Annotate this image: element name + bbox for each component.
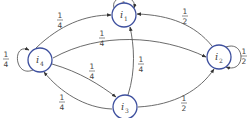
svg-text:3: 3 [125,107,129,114]
label-i4-i1: 1 4 [57,11,63,30]
svg-text:1: 1 [58,11,63,20]
svg-text:4: 4 [100,39,105,48]
svg-text:2: 2 [242,57,247,66]
svg-text:1: 1 [182,94,187,103]
node-i1: i 1 [112,3,136,27]
markov-chain-diagram: 1 1 2 1 2 1 2 1 4 1 4 1 4 [0,0,248,118]
svg-text:4: 4 [4,60,9,69]
svg-text:4: 4 [139,65,144,74]
svg-text:1: 1 [4,50,9,59]
label-i3-i4: 1 4 [59,93,65,112]
svg-text:1: 1 [124,15,128,22]
edge-i4-i2 [53,39,206,58]
label-i3-i2: 1 2 [181,94,187,113]
label-i2-i2: 1 2 [241,47,247,66]
svg-text:1: 1 [139,55,144,64]
node-i4: i 4 [28,48,52,72]
node-i2: i 2 [207,45,231,69]
svg-text:1: 1 [183,7,188,16]
edge-i3-i1 [128,27,134,95]
node-i3: i 3 [113,95,137,118]
label-i2-i1: 1 2 [182,7,188,26]
svg-text:i: i [121,101,124,112]
svg-text:2: 2 [219,57,223,64]
label-i4-i3: 1 4 [89,62,95,81]
svg-text:4: 4 [90,72,95,81]
svg-text:1: 1 [100,29,105,38]
svg-text:i: i [120,9,123,20]
edge-i2-i1 [137,14,212,46]
edge-i3-i4 [44,72,112,109]
svg-text:4: 4 [40,60,44,67]
svg-text:1: 1 [60,93,65,102]
svg-text:1: 1 [90,62,95,71]
label-i4-i4: 1 4 [3,50,9,69]
svg-text:i: i [36,54,39,65]
label-i3-i1: 1 4 [138,55,144,74]
svg-text:i: i [215,51,218,62]
svg-text:2: 2 [183,17,188,26]
svg-text:4: 4 [58,21,63,30]
svg-text:4: 4 [60,103,65,112]
svg-text:2: 2 [182,104,187,113]
label-i4-i2: 1 4 [99,29,105,48]
svg-text:1: 1 [242,47,247,56]
edge-i3-i2 [138,69,214,107]
